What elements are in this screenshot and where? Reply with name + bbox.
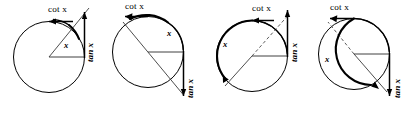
angle-ray [49,8,89,57]
trig-figure-row: cot x tan x x cot x tan x x [0,0,412,113]
tan-label-2: tan x [185,78,195,98]
cot-arrowhead [49,19,56,25]
angle-arc-head [217,21,252,80]
angle-ray [354,54,387,92]
angle-label-2: x [166,28,172,38]
cot-arrowhead [125,13,133,20]
angle-arc [354,19,389,53]
cot-arrowhead [330,15,337,22]
angle-arc [252,21,287,55]
tan-label-3: tan x [289,42,299,62]
angle-ray-extension [328,22,354,54]
angle-arc-head [336,19,371,86]
cot-label-1: cot x [48,4,67,14]
cot-label-3: cot x [252,3,271,13]
angle-label-3: x [222,39,228,49]
cot-label-4: cot x [330,2,349,12]
tan-label-1: tan x [85,42,95,62]
angle-ray [225,56,252,86]
trig-diagram-panel-1: cot x tan x x [0,0,103,113]
angle-arrowhead [371,82,379,89]
cot-label-2: cot x [125,1,144,11]
angle-label-1: x [63,40,69,50]
trig-diagram-panel-3: cot x tan x x [206,0,309,113]
angle-label-4: x [324,54,330,64]
tan-arrowhead [285,10,290,17]
trig-diagram-panel-2: cot x tan x x [103,0,206,113]
trig-diagram-panel-4: cot x tan x x [309,0,412,113]
tan-label-4: tan x [392,78,402,98]
cot-arrowhead [252,18,259,24]
